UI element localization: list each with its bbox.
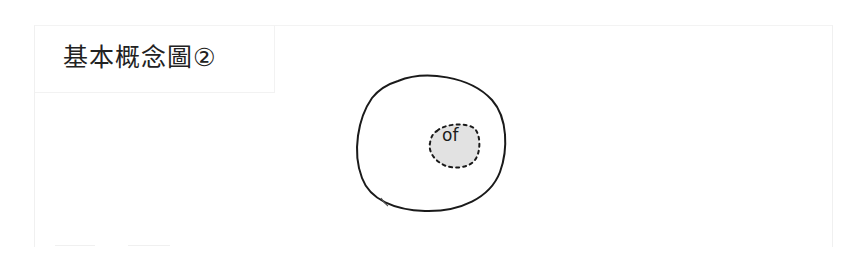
inner-label: of [442,125,459,145]
inner-blob: of [430,124,480,167]
concept-diagram: of [0,0,862,266]
